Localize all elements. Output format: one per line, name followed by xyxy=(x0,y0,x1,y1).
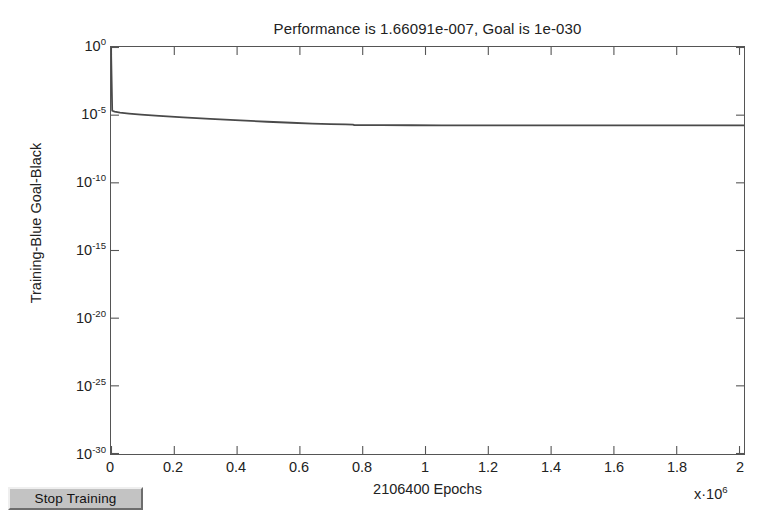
page-title: Performance is 1.66091e-007, Goal is 1e-… xyxy=(110,20,745,37)
training-performance-curve xyxy=(111,47,744,125)
y-tick-exponent: -30 xyxy=(92,444,106,455)
y-tick-exponent: -15 xyxy=(92,240,106,251)
x-tick-label: 1.6 xyxy=(604,459,624,475)
x-tick-label: 0.8 xyxy=(352,459,372,475)
x-tick-label: 2 xyxy=(736,459,744,475)
y-tick-exponent: -20 xyxy=(92,308,106,319)
y-tick-mantissa: 10 xyxy=(85,38,101,54)
x-tick-label: 0 xyxy=(106,459,114,475)
x-tick-label: 0.2 xyxy=(163,459,183,475)
y-tick-mantissa: 10 xyxy=(76,310,92,326)
y-tick-label: 100 xyxy=(44,39,106,54)
x-multiplier-base: x·10 xyxy=(694,486,722,502)
y-tick-exponent: -10 xyxy=(92,172,106,183)
y-tick-label: 10-15 xyxy=(44,243,106,258)
x-axis-tick-labels: 0 0.2 0.4 0.6 0.8 1 1.2 1.4 1.6 1.8 2 xyxy=(110,459,745,481)
y-tick-label: 10-5 xyxy=(44,107,106,122)
y-tick-exponent: -5 xyxy=(97,104,106,115)
y-tick-label: 10-10 xyxy=(44,175,106,190)
y-tick-label: 10-30 xyxy=(44,447,106,462)
x-axis-label: 2106400 Epochs xyxy=(110,481,745,497)
y-axis-ticks-right xyxy=(736,47,744,453)
y-tick-mantissa: 10 xyxy=(81,106,97,122)
y-axis-label: Training-Blue Goal-Black xyxy=(28,113,44,333)
x-tick-label: 1.2 xyxy=(478,459,498,475)
stop-training-button[interactable]: Stop Training xyxy=(8,487,143,510)
y-tick-mantissa: 10 xyxy=(76,174,92,190)
x-axis-ticks xyxy=(111,446,739,454)
x-tick-label: 1 xyxy=(421,459,429,475)
x-axis-multiplier: x·106 xyxy=(694,486,728,502)
x-tick-label: 0.4 xyxy=(226,459,246,475)
y-tick-label: 10-20 xyxy=(44,311,106,326)
y-tick-mantissa: 10 xyxy=(76,242,92,258)
x-tick-label: 1.8 xyxy=(667,459,687,475)
x-tick-label: 0.6 xyxy=(289,459,309,475)
x-axis-ticks-top xyxy=(111,47,739,55)
y-tick-exponent: 0 xyxy=(101,36,106,47)
y-tick-mantissa: 10 xyxy=(76,378,92,394)
matlab-training-figure: Performance is 1.66091e-007, Goal is 1e-… xyxy=(0,0,766,526)
y-tick-label: 10-25 xyxy=(44,379,106,394)
y-axis-tick-labels: 100 10-5 10-10 10-15 10-20 10-25 10-30 xyxy=(40,46,106,455)
y-tick-exponent: -25 xyxy=(92,376,106,387)
performance-curve-plot xyxy=(111,47,744,454)
y-tick-mantissa: 10 xyxy=(76,446,92,462)
plot-axes xyxy=(110,46,745,455)
x-tick-label: 1.4 xyxy=(541,459,561,475)
x-multiplier-exponent: 6 xyxy=(722,484,727,495)
